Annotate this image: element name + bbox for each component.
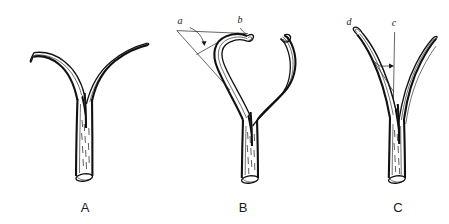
figure-root: A bbox=[0, 0, 449, 224]
figure-canvas: A bbox=[0, 0, 449, 224]
panel-label-c: C bbox=[393, 200, 402, 215]
panel-label-a: A bbox=[81, 200, 90, 215]
panel-label-b: B bbox=[239, 200, 248, 215]
panel-b-annotation-a: a bbox=[178, 15, 183, 26]
panel-c-annotation-c: c bbox=[392, 17, 397, 28]
figure-background bbox=[0, 0, 449, 224]
panel-b-annotation-b: b bbox=[238, 14, 243, 25]
